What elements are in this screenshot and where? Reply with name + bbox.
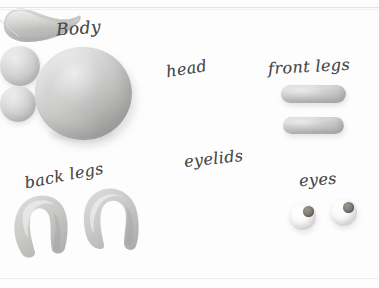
label-eyelids: eyelids [183, 146, 244, 171]
label-front-legs: front legs [268, 55, 351, 78]
clay-part-eyelid-2 [0, 86, 36, 122]
clay-part-eye-1 [289, 203, 316, 230]
clay-parts-photo: Body head front legs back le [0, 0, 379, 288]
clay-part-body [35, 47, 132, 140]
clay-part-front-leg-2 [283, 117, 344, 134]
clay-part-eyelid-1 [0, 46, 40, 86]
label-eyes: eyes [298, 169, 337, 191]
label-head: head [165, 56, 209, 81]
eye-pupil-1 [303, 206, 314, 217]
label-body: Body [55, 16, 101, 39]
surface-edge-line-top-secondary [0, 9, 379, 10]
surface-edge-line-bottom [0, 278, 379, 279]
clay-part-front-leg-1 [281, 85, 346, 103]
clay-part-back-leg-1 [9, 192, 75, 259]
clay-part-eye-2 [330, 199, 357, 226]
clay-part-back-leg-2 [79, 186, 146, 253]
eye-pupil-2 [343, 202, 354, 213]
surface-edge-line-top [0, 7, 379, 8]
